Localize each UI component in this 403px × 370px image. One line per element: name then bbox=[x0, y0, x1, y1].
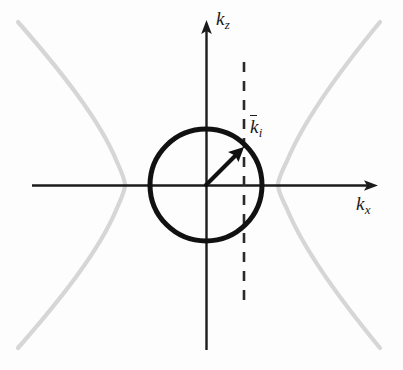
diagram-canvas bbox=[0, 0, 403, 370]
kx-axis-label-subscript: x bbox=[365, 202, 371, 217]
wavevector-label-subscript: i bbox=[259, 125, 263, 140]
kz-axis-label-subscript: z bbox=[225, 17, 230, 32]
kx-axis-label-symbol: k bbox=[356, 193, 364, 214]
kz-axis-label: kz bbox=[216, 9, 230, 31]
kz-axis-label-symbol: k bbox=[216, 8, 224, 29]
wavevector-label-symbol: k bbox=[250, 117, 258, 136]
wavevector-diagram: kz kx ki bbox=[0, 0, 403, 370]
wavevector-label: ki bbox=[250, 117, 262, 139]
kx-axis-label: kx bbox=[356, 194, 371, 216]
wavevector-arrow-shaft bbox=[206, 154, 237, 185]
